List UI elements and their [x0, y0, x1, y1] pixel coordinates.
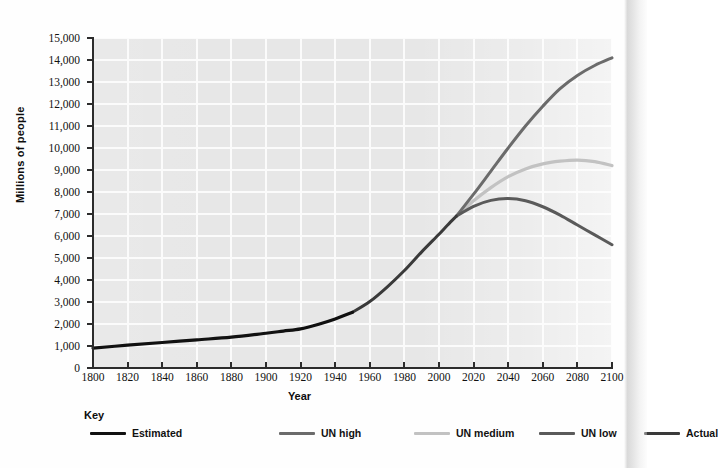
- x-tick-mark: [196, 362, 198, 367]
- legend-label: UN high: [321, 427, 361, 439]
- x-tick-mark: [161, 362, 163, 367]
- x-tick-mark: [265, 362, 267, 367]
- y-tick-label: 14,000: [48, 54, 84, 66]
- y-tick-label: 5,000: [54, 252, 84, 264]
- series-lines: [93, 38, 612, 368]
- plot-area: [93, 38, 612, 368]
- x-axis-title-text: Year: [288, 390, 311, 402]
- y-tick-mark: [87, 125, 92, 127]
- legend-swatch: [644, 432, 680, 435]
- x-tick-mark: [92, 362, 94, 367]
- y-tick-mark: [87, 345, 92, 347]
- y-tick-mark: [87, 235, 92, 237]
- x-tick-label: 1880: [220, 371, 243, 383]
- legend-swatch: [539, 432, 575, 435]
- x-tick-label: 1900: [255, 371, 278, 383]
- y-tick-mark: [87, 257, 92, 259]
- y-axis-title: Millions of people: [14, 107, 26, 204]
- x-tick-label: 2080: [566, 371, 589, 383]
- x-tick-label: 1860: [185, 371, 208, 383]
- x-tick-mark: [611, 362, 613, 367]
- x-tick-label: 1920: [289, 371, 312, 383]
- y-tick-label: 11,000: [49, 120, 84, 132]
- x-tick-mark: [369, 362, 371, 367]
- y-tick-label: 13,000: [48, 76, 84, 88]
- x-tick-label: 1980: [393, 371, 416, 383]
- x-axis-title: Year: [0, 390, 647, 402]
- x-tick-mark: [127, 362, 129, 367]
- x-tick-label: 1840: [151, 371, 174, 383]
- x-tick-label: 1800: [82, 371, 105, 383]
- y-tick-mark: [87, 103, 92, 105]
- y-tick-label: 6,000: [54, 230, 84, 242]
- y-tick-label: 9,000: [54, 164, 84, 176]
- y-tick-mark: [87, 169, 92, 171]
- legend-item-un-medium[interactable]: UN medium: [414, 424, 514, 442]
- series-line-estimated: [93, 312, 353, 348]
- x-tick-label: 2040: [497, 371, 520, 383]
- y-tick-mark: [87, 367, 92, 369]
- y-tick-mark: [87, 279, 92, 281]
- y-tick-label: 12,000: [48, 98, 84, 110]
- y-tick-mark: [87, 37, 92, 39]
- y-tick-mark: [87, 191, 92, 193]
- y-tick-label: 4,000: [54, 274, 84, 286]
- y-tick-mark: [87, 147, 92, 149]
- legend-item-estimated[interactable]: Estimated: [90, 424, 182, 442]
- y-axis-line: [92, 37, 94, 369]
- legend-item-un-low[interactable]: UN low: [539, 424, 617, 442]
- x-tick-mark: [300, 362, 302, 367]
- x-tick-mark: [542, 362, 544, 367]
- y-tick-mark: [87, 323, 92, 325]
- legend-label: UN medium: [456, 427, 514, 439]
- x-tick-label: 2020: [462, 371, 485, 383]
- x-tick-mark: [507, 362, 509, 367]
- x-tick-label: 1820: [116, 371, 139, 383]
- x-tick-label: 2100: [601, 371, 624, 383]
- legend-swatch: [90, 432, 126, 435]
- y-tick-mark: [87, 213, 92, 215]
- legend-label: Actual: [686, 427, 718, 439]
- x-tick-label: 2060: [531, 371, 554, 383]
- y-tick-label: 3,000: [54, 296, 84, 308]
- x-axis-line: [93, 367, 613, 369]
- y-tick-label: 1,000: [54, 340, 84, 352]
- y-tick-label: 7,000: [54, 208, 84, 220]
- y-tick-mark: [87, 59, 92, 61]
- y-tick-mark: [87, 301, 92, 303]
- x-tick-label: 1940: [324, 371, 347, 383]
- series-line-actual: [353, 216, 457, 312]
- x-tick-mark: [473, 362, 475, 367]
- x-tick-mark: [576, 362, 578, 367]
- series-line-un-low: [456, 199, 612, 245]
- chart-legend: EstimatedUN highUN mediumUN lowActual: [84, 424, 614, 442]
- x-tick-mark: [230, 362, 232, 367]
- y-tick-label: 8,000: [54, 186, 84, 198]
- legend-label: UN low: [581, 427, 617, 439]
- x-tick-label: 2000: [428, 371, 451, 383]
- x-tick-mark: [403, 362, 405, 367]
- legend-item-actual[interactable]: Actual: [644, 424, 718, 442]
- y-tick-label: 15,000: [48, 32, 84, 44]
- legend-swatch: [414, 432, 450, 435]
- x-tick-mark: [438, 362, 440, 367]
- key-title: Key: [84, 409, 104, 421]
- legend-item-un-high[interactable]: UN high: [279, 424, 361, 442]
- legend-label: Estimated: [132, 427, 182, 439]
- y-tick-label: 10,000: [48, 142, 84, 154]
- legend-swatch: [279, 432, 315, 435]
- series-line-un-high: [456, 58, 612, 216]
- x-tick-mark: [334, 362, 336, 367]
- x-tick-label: 1960: [358, 371, 381, 383]
- y-tick-mark: [87, 81, 92, 83]
- y-tick-label: 2,000: [54, 318, 84, 330]
